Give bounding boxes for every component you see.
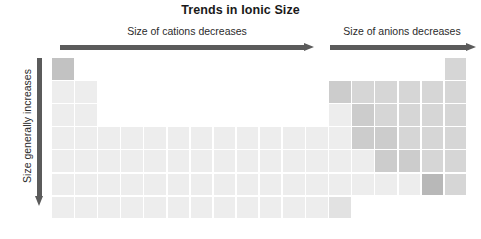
ptable-cell (214, 127, 236, 149)
ptable-cell (445, 150, 467, 172)
ptable-cell (306, 174, 328, 196)
ptable-cell (352, 104, 374, 126)
ptable-cell (121, 174, 143, 196)
ptable-cell (168, 127, 190, 149)
ptable-cell (75, 81, 97, 103)
ptable-cell (52, 104, 74, 126)
ptable-cell (75, 127, 97, 149)
ptable-cell (191, 150, 213, 172)
ptable-cell (191, 174, 213, 196)
ptable-cell (144, 197, 166, 219)
ptable-cell (144, 150, 166, 172)
ptable-cell (52, 81, 74, 103)
ptable-cell (283, 197, 305, 219)
ptable-cell (375, 174, 397, 196)
ptable-cell (52, 174, 74, 196)
ptable-cell (144, 174, 166, 196)
ptable-cell (422, 104, 444, 126)
ptable-cell (52, 127, 74, 149)
ionic-size-trend-figure: Trends in Ionic Size Size of cations dec… (0, 0, 481, 239)
ptable-cell (375, 104, 397, 126)
ptable-cell (306, 197, 328, 219)
ptable-cell (168, 197, 190, 219)
ptable-cell (191, 127, 213, 149)
ptable-cell (75, 197, 97, 219)
ptable-cell (422, 150, 444, 172)
ptable-cell (352, 150, 374, 172)
ptable-cell (306, 150, 328, 172)
ptable-cell (445, 58, 467, 80)
ptable-cell (306, 127, 328, 149)
ptable-cell (260, 127, 282, 149)
ptable-cell (329, 197, 351, 219)
ptable-cell (237, 150, 259, 172)
ptable-cell (121, 150, 143, 172)
ptable-cell (121, 197, 143, 219)
ptable-cell (191, 197, 213, 219)
ptable-cell (52, 58, 74, 80)
ptable-cell (98, 150, 120, 172)
ptable-cell (329, 150, 351, 172)
ptable-cell (75, 150, 97, 172)
ptable-cell (422, 174, 444, 196)
ptable-cell (52, 150, 74, 172)
ptable-cell (329, 104, 351, 126)
ptable-cell (260, 197, 282, 219)
ptable-cell (352, 81, 374, 103)
ptable-cell (121, 127, 143, 149)
ptable-cell (375, 150, 397, 172)
ptable-cell (144, 127, 166, 149)
ptable-cell (422, 127, 444, 149)
ptable-cell (214, 150, 236, 172)
ptable-cell (260, 174, 282, 196)
ptable-cell (329, 81, 351, 103)
ptable-cell (283, 127, 305, 149)
periodic-table-grid (0, 0, 481, 239)
ptable-cell (98, 174, 120, 196)
ptable-cell (237, 127, 259, 149)
ptable-cell (98, 197, 120, 219)
ptable-cell (329, 174, 351, 196)
ptable-cell (214, 174, 236, 196)
ptable-cell (399, 174, 421, 196)
ptable-cell (445, 127, 467, 149)
ptable-cell (214, 197, 236, 219)
ptable-cell (399, 127, 421, 149)
ptable-cell (168, 150, 190, 172)
ptable-cell (445, 81, 467, 103)
ptable-cell (52, 197, 74, 219)
ptable-cell (399, 150, 421, 172)
ptable-cell (375, 81, 397, 103)
ptable-cell (237, 197, 259, 219)
ptable-cell (168, 174, 190, 196)
ptable-cell (422, 81, 444, 103)
ptable-cell (75, 174, 97, 196)
ptable-cell (283, 150, 305, 172)
ptable-cell (399, 104, 421, 126)
ptable-cell (75, 104, 97, 126)
ptable-cell (399, 81, 421, 103)
ptable-cell (445, 174, 467, 196)
ptable-cell (445, 104, 467, 126)
ptable-cell (375, 127, 397, 149)
ptable-cell (283, 174, 305, 196)
ptable-cell (98, 127, 120, 149)
ptable-cell (352, 127, 374, 149)
ptable-cell (352, 174, 374, 196)
ptable-cell (237, 174, 259, 196)
ptable-cell (329, 127, 351, 149)
ptable-cell (260, 150, 282, 172)
